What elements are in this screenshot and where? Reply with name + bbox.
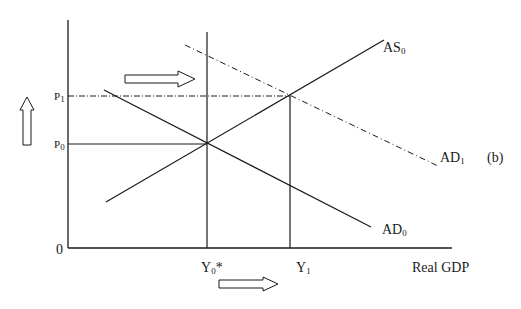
p1-label-sub: 1 bbox=[60, 94, 65, 104]
y0-label-base: Y bbox=[201, 260, 211, 275]
ad0-label-sub: 0 bbox=[402, 228, 407, 238]
p1-label: P1 bbox=[54, 89, 65, 106]
p0-label-sub: 0 bbox=[60, 142, 65, 152]
panel-label: (b) bbox=[487, 151, 503, 165]
price-rise-arrow-icon bbox=[20, 97, 34, 145]
ad-shift-arrow-icon bbox=[125, 71, 195, 87]
y0-label-suffix: * bbox=[216, 260, 223, 275]
y1-label-sub: 1 bbox=[306, 266, 311, 276]
as0-label: AS0 bbox=[383, 41, 405, 58]
ad1-label-sub: 1 bbox=[460, 156, 465, 166]
ad1-label-base: AD bbox=[440, 150, 460, 165]
y0-star-label: Y0* bbox=[201, 261, 223, 278]
y1-label: Y1 bbox=[296, 261, 311, 278]
x-axis-label: Real GDP bbox=[412, 261, 469, 275]
as0-label-base: AS bbox=[383, 40, 401, 55]
ad0-label: AD0 bbox=[382, 223, 407, 240]
ad1-label: AD1 bbox=[440, 151, 465, 168]
y1-label-base: Y bbox=[296, 260, 306, 275]
output-rise-arrow-icon bbox=[219, 277, 278, 291]
as0-label-sub: 0 bbox=[401, 46, 406, 56]
origin-label: 0 bbox=[56, 243, 63, 257]
p0-label: P0 bbox=[54, 137, 65, 154]
as0-curve bbox=[106, 40, 384, 202]
ad0-label-base: AD bbox=[382, 222, 402, 237]
ad0-curve bbox=[104, 90, 371, 227]
ad1-curve bbox=[185, 45, 438, 166]
